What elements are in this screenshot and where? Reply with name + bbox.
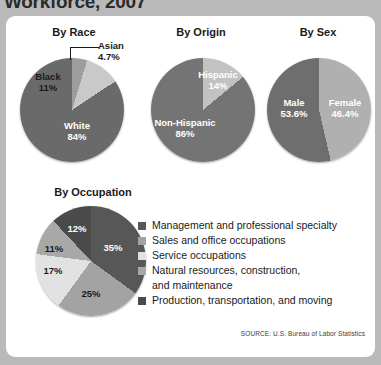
- chart-by-sex: By Sex Male 53.6% Female 46.4%: [262, 26, 374, 170]
- chart-title-race: By Race: [8, 26, 140, 38]
- legend-item: Production, transportation, and moving: [138, 294, 374, 308]
- chart-title-sex: By Sex: [262, 26, 374, 38]
- chart-title-origin: By Origin: [143, 26, 259, 38]
- legend-label-continuation: and maintenance: [152, 279, 233, 292]
- chart-title-occupation: By Occupation: [28, 186, 158, 198]
- asian-leader-horizontal: [70, 47, 99, 48]
- legend-label: Sales and office occupations: [152, 234, 285, 247]
- legend-item: Management and professional specialty: [138, 219, 374, 233]
- legend-item: Sales and office occupations: [138, 234, 374, 248]
- legend-label: Natural resources, construction,: [152, 264, 300, 277]
- legend-label: Service occupations: [152, 249, 246, 262]
- legend-item: Service occupations: [138, 249, 374, 263]
- legend-swatch-icon: [138, 252, 146, 260]
- legend-label: Management and professional specialty: [152, 219, 337, 232]
- chart-by-origin: By Origin Hispanic 14% Non-Hispanic 86%: [143, 26, 259, 170]
- legend-item-continuation: and maintenance: [138, 279, 374, 293]
- legend-swatch-icon: [138, 267, 146, 275]
- legend-item: Natural resources, construction,: [138, 264, 374, 278]
- pie-origin: [151, 58, 255, 162]
- label-asian: Asian 4.7%: [98, 41, 124, 63]
- pie-sex: [267, 58, 371, 162]
- pie-race: [20, 58, 124, 162]
- legend-swatch-icon: [138, 237, 146, 245]
- occupation-legend: Management and professional specialty Sa…: [138, 219, 374, 309]
- asian-leader-vertical: [70, 47, 71, 60]
- header-band: Workforce, 2007: [0, 0, 381, 16]
- legend-swatch-icon: [138, 297, 146, 305]
- chart-by-race: By Race Asian 4.7% Black 11% White 84%: [8, 26, 140, 170]
- legend-swatch-icon: [138, 222, 146, 230]
- infographic-root: Workforce, 2007 By Race Asian 4.7% Black…: [0, 0, 381, 365]
- pie-occupation: [36, 206, 146, 316]
- page-title: Workforce, 2007: [4, 0, 146, 13]
- legend-label: Production, transportation, and moving: [152, 294, 332, 307]
- source-note: SOURCE: U.S. Bureau of Labor Statistics: [241, 330, 365, 337]
